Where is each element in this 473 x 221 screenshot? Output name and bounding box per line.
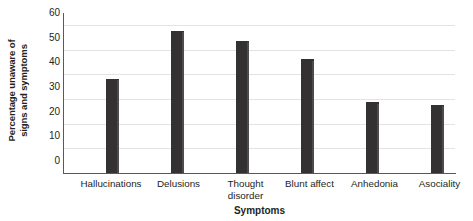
y-tick-label-40: 40 xyxy=(34,57,60,67)
y-tick-label-0: 0 xyxy=(34,156,60,166)
gridline-20 xyxy=(64,124,455,125)
category-label-blunt-affect: Blunt affect xyxy=(272,178,347,190)
bar-thought-disorder xyxy=(236,41,249,173)
y-axis-line xyxy=(63,13,64,174)
gridline-10 xyxy=(64,148,455,149)
bar-face xyxy=(236,41,247,173)
bar-blunt-affect xyxy=(301,59,314,172)
bar-face xyxy=(171,31,182,173)
plot-area xyxy=(63,13,456,174)
y-axis-title-line-1: Percentage unaware of xyxy=(7,39,19,141)
category-label-text: Delusions xyxy=(142,178,215,190)
gridline-30 xyxy=(64,99,455,100)
bar-asociality xyxy=(431,105,444,173)
y-tick-label-50: 50 xyxy=(34,33,60,43)
category-label-asociality: Asociality xyxy=(402,178,473,190)
y-tick-label-30: 30 xyxy=(34,82,60,92)
category-label-text: Blunt affect xyxy=(272,178,347,190)
x-axis-title: Symptoms xyxy=(63,205,456,216)
bar-delusions xyxy=(171,31,184,173)
bar-face xyxy=(106,79,117,173)
bar-face xyxy=(431,105,442,173)
bar-hallucinations xyxy=(106,79,119,173)
bar-side-shading xyxy=(247,42,249,172)
bar-side-shading xyxy=(312,61,314,173)
category-label-hallucinations: Hallucinations xyxy=(72,178,150,190)
category-label-anhedonia: Anhedonia xyxy=(337,178,412,190)
y-axis-title: Percentage unaware of signs and symptoms xyxy=(0,0,36,180)
bar-chart-figure: Percentage unaware of signs and symptoms… xyxy=(0,0,473,221)
category-label-text-line-2: disorder xyxy=(209,190,282,202)
bar-side-shading xyxy=(182,32,184,172)
category-label-delusions: Delusions xyxy=(142,178,215,190)
gridline-40 xyxy=(64,74,455,75)
y-tick-label-60: 60 xyxy=(34,8,60,18)
y-axis-title-line-2: signs and symptoms xyxy=(18,39,30,141)
category-label-text: Anhedonia xyxy=(337,178,412,190)
gridline-60 xyxy=(64,25,455,26)
bar-anhedonia xyxy=(366,102,379,172)
gridline-50 xyxy=(64,50,455,51)
y-tick-label-10: 10 xyxy=(34,131,60,141)
category-label-text: Asociality xyxy=(402,178,473,190)
y-axis-tick-labels: 60 50 40 30 20 10 0 xyxy=(34,0,60,221)
bar-side-shading xyxy=(442,106,444,172)
bar-side-shading xyxy=(377,104,379,173)
y-tick-label-20: 20 xyxy=(34,107,60,117)
x-axis-category-labels: Hallucinations Delusions Thought disorde… xyxy=(63,178,456,208)
x-axis-line xyxy=(63,173,456,174)
bar-side-shading xyxy=(117,80,119,172)
category-label-text: Hallucinations xyxy=(72,178,150,190)
bar-face xyxy=(301,59,312,172)
bar-face xyxy=(366,102,377,172)
